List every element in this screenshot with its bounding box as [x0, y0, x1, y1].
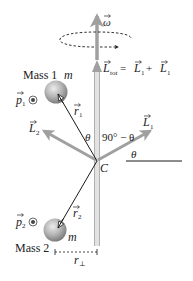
svg-text:p: p	[15, 215, 22, 229]
r1-label: r 1	[74, 104, 83, 120]
angular-momentum-diagram: ω L tot = L 1 + L 1 Mass 1 m Mas	[0, 0, 193, 281]
dot-in-circle-icon	[29, 218, 37, 226]
theta-left-label: θ	[85, 131, 91, 143]
mass-1-label: Mass 1	[23, 68, 57, 82]
r-perp-dimension: r ⊥	[55, 249, 97, 268]
svg-text:1: 1	[79, 111, 83, 119]
svg-text:1: 1	[167, 69, 171, 77]
svg-text:=: =	[120, 62, 126, 74]
svg-text:+: +	[146, 62, 152, 74]
dot-in-circle-icon	[29, 96, 37, 104]
svg-text:1: 1	[22, 100, 26, 108]
ninety-minus-theta-label: 90° − θ	[102, 131, 134, 143]
mass-1-sphere	[45, 81, 68, 104]
theta-right-label: θ	[131, 148, 137, 160]
svg-text:tot: tot	[110, 69, 117, 77]
rotation-axis-rod	[95, 66, 100, 246]
p1-momentum: p 1	[15, 92, 37, 109]
svg-text:2: 2	[78, 213, 82, 221]
svg-text:1: 1	[150, 123, 154, 131]
l-tot-vector-head	[92, 60, 102, 72]
svg-text:2: 2	[22, 222, 26, 230]
svg-text:⊥: ⊥	[79, 260, 86, 268]
svg-text:2: 2	[36, 129, 40, 137]
l2-label: L 2	[28, 121, 40, 138]
svg-text:1: 1	[141, 69, 145, 77]
mass-2-sphere	[44, 219, 67, 242]
mass-2-label: Mass 2	[15, 241, 49, 255]
r2-label: r 2	[73, 206, 82, 222]
p2-momentum: p 2	[15, 214, 37, 231]
mass-2-m-label: m	[68, 230, 77, 244]
mass-1-m-label: m	[64, 68, 73, 82]
omega-label: ω	[103, 16, 111, 28]
l1-label: L 1	[142, 115, 154, 132]
pivot-c-label: C	[100, 161, 109, 175]
l-tot-equation: L tot = L 1 + L 1	[102, 61, 171, 78]
svg-text:p: p	[15, 93, 22, 107]
